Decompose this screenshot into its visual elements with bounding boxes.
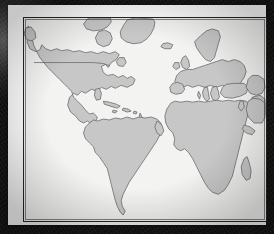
landmass-puerto-rico xyxy=(133,111,137,114)
landmass-iberia xyxy=(170,82,185,94)
landmass-iceland xyxy=(161,43,173,49)
map-plate xyxy=(23,17,267,222)
world-map-graphic xyxy=(24,18,266,221)
frame-mat xyxy=(8,5,266,225)
landmass-florida xyxy=(94,88,101,100)
landmass-baffin-island xyxy=(95,30,112,47)
landmass-newfoundland xyxy=(116,58,126,67)
framed-map-image: World Map Atlantic-centered equirectangu… xyxy=(0,0,274,234)
